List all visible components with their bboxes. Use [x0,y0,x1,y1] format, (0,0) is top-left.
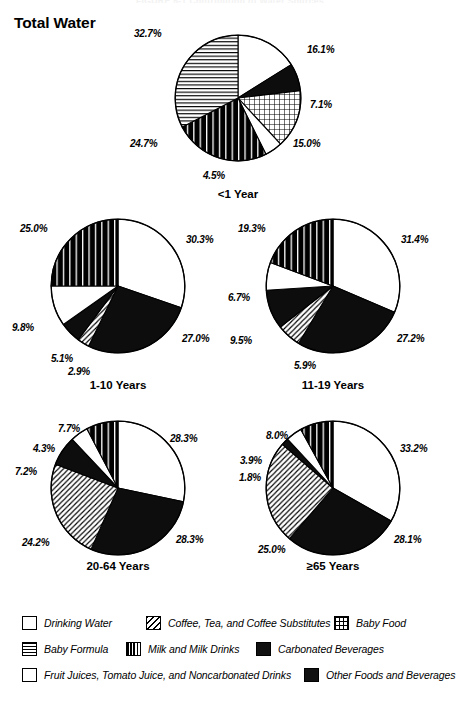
other-foods-swatch-icon [304,668,319,682]
pie-svg-0 [174,34,302,162]
pie-2-value-1: 27.2% [397,333,424,344]
legend-item-carbonated[interactable]: Carbonated Beverages [256,642,384,656]
pie-4-value-3: 1.8% [239,472,261,483]
legend-item-other-foods[interactable]: Other Foods and Beverages [304,668,455,682]
pie-0-caption: <1 Year [178,188,298,200]
legend-item-milk[interactable]: Milk and Milk Drinks [126,642,239,656]
pie-0-value-1: 7.1% [310,99,332,110]
pie-1-value-4: 9.8% [12,322,34,333]
legend-item-fruit-juices[interactable]: Fruit Juices, Tomato Juice, and Noncarbo… [22,668,291,682]
baby-food-swatch-icon [334,616,349,630]
legend-label: Fruit Juices, Tomato Juice, and Noncarbo… [44,669,291,681]
legend-row-2: Baby Formula Milk and Milk Drinks Carbon… [22,642,442,663]
pie-4-value-5: 8.0% [266,430,288,441]
pie-chart-11-19-years [265,218,401,354]
baby-formula-swatch-icon [22,642,37,656]
legend-label: Carbonated Beverages [278,643,384,655]
pie-chart-1-10-years [50,218,186,354]
pie-4-value-0: 33.2% [400,443,427,454]
legend-label: Milk and Milk Drinks [148,643,239,655]
pie-3-value-2: 24.2% [22,537,49,548]
pie-svg-2 [265,218,401,354]
milk-swatch-icon [126,642,141,656]
cut-off-figure-header: FIGURE 5-1 Contribution of Water Sources [0,0,460,3]
pie-3-value-5: 7.7% [58,423,80,434]
page-title: Total Water [14,14,96,32]
pie-3-value-1: 28.3% [176,534,203,545]
pie-4-value-2: 25.0% [258,544,285,555]
coffee-tea-swatch-icon [146,616,161,630]
pie-2-value-4: 6.7% [228,292,250,303]
pie-slice [51,219,118,286]
pie-4-value-1: 28.1% [394,534,421,545]
carbonated-swatch-icon [256,642,271,656]
pie-svg-1 [50,218,186,354]
pie-chart-20-64-years [50,420,186,556]
legend-label: Other Foods and Beverages [326,669,455,681]
pie-1-value-0: 30.3% [186,234,213,245]
legend-item-coffee-tea[interactable]: Coffee, Tea, and Coffee Substitutes [146,616,330,630]
pie-0-value-3: 4.5% [203,170,225,181]
pie-1-caption: 1-10 Years [58,379,178,391]
legend-item-drinking-water[interactable]: Drinking Water [22,616,112,630]
pie-0-value-4: 24.7% [130,138,157,149]
pie-3-value-4: 4.3% [33,443,55,454]
pie-2-caption: 11-19 Years [273,379,393,391]
pie-0-value-0: 16.1% [307,44,334,55]
pie-4-caption: ≥65 Years [273,560,393,572]
pie-chart-under-1-year [174,34,302,162]
pie-svg-3 [50,420,186,556]
pie-3-caption: 20-64 Years [58,560,178,572]
pie-1-value-1: 27.0% [182,333,209,344]
pie-3-value-0: 28.3% [170,433,197,444]
drinking-water-swatch-icon [22,616,37,630]
pie-0-value-2: 15.0% [293,138,320,149]
pie-1-value-2: 2.9% [68,366,90,377]
figure-canvas: FIGURE 5-1 Contribution of Water Sources… [0,0,460,717]
legend-label: Baby Food [356,617,406,629]
legend-row-1: Drinking Water Coffee, Tea, and Coffee S… [22,616,442,637]
pie-2-value-2: 5.9% [294,360,316,371]
legend-label: Baby Formula [44,643,108,655]
legend-row-3: Fruit Juices, Tomato Juice, and Noncarbo… [22,668,442,689]
legend-item-baby-food[interactable]: Baby Food [334,616,406,630]
pie-1-value-5: 25.0% [20,223,47,234]
legend-label: Drinking Water [44,617,112,629]
pie-2-value-5: 19.3% [238,223,265,234]
pie-2-value-3: 9.5% [230,335,252,346]
fruit-juices-swatch-icon [22,668,37,682]
pie-1-value-3: 5.1% [51,353,73,364]
pie-3-value-3: 7.2% [15,466,37,477]
pie-2-value-0: 31.4% [401,234,428,245]
legend: Drinking Water Coffee, Tea, and Coffee S… [22,616,442,696]
pie-4-value-4: 3.9% [240,455,262,466]
legend-item-baby-formula[interactable]: Baby Formula [22,642,108,656]
pie-0-value-5: 32.7% [134,28,161,39]
legend-label: Coffee, Tea, and Coffee Substitutes [168,617,330,629]
